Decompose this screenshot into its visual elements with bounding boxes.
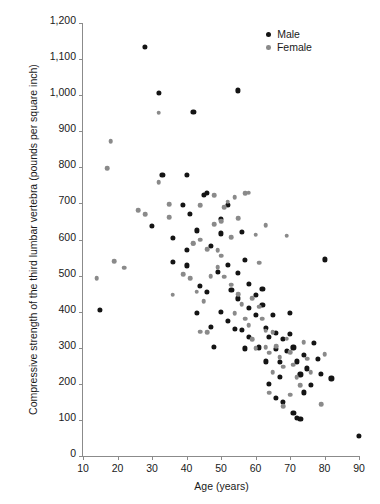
data-point-male: [201, 193, 206, 198]
data-point-female: [136, 208, 141, 213]
data-point-female: [167, 215, 172, 220]
y-tick-label: 400: [58, 304, 76, 315]
data-point-male: [277, 359, 282, 364]
legend-label-female: Female: [277, 41, 312, 54]
data-point-female: [198, 329, 203, 334]
data-point-female: [236, 216, 241, 221]
data-point-male: [322, 257, 327, 262]
data-point-male: [156, 90, 161, 95]
data-point-female: [284, 233, 289, 238]
data-point-female: [222, 274, 227, 279]
data-point-female: [253, 346, 258, 351]
x-tick-label: 60: [250, 463, 262, 474]
data-point-female: [170, 292, 175, 297]
data-point-male: [170, 235, 175, 240]
data-point-male: [184, 263, 189, 268]
data-point-male: [298, 417, 303, 422]
data-point-male: [187, 211, 192, 216]
legend-item-female: Female: [266, 41, 312, 54]
data-point-female: [281, 365, 286, 370]
data-point-female: [281, 404, 286, 409]
data-point-male: [236, 296, 241, 301]
data-point-female: [288, 350, 293, 355]
data-point-male: [225, 262, 230, 267]
data-point-female: [198, 203, 203, 208]
x-tick-mark: [325, 456, 326, 460]
x-tick-label: 40: [181, 463, 193, 474]
y-axis-title: Compressive strength of the third lumbar…: [22, 23, 44, 456]
data-point-female: [215, 248, 220, 253]
data-point-female: [305, 356, 310, 361]
data-point-female: [308, 370, 313, 375]
data-point-female: [243, 317, 248, 322]
data-point-female: [95, 276, 100, 281]
data-point-female: [233, 195, 238, 200]
data-point-male: [229, 287, 234, 292]
y-tick-label: 200: [58, 376, 76, 387]
data-point-female: [246, 323, 251, 328]
data-point-male: [236, 88, 241, 93]
data-point-male: [301, 390, 306, 395]
data-point-male: [260, 287, 265, 292]
data-point-female: [215, 265, 220, 270]
data-point-male: [191, 110, 196, 115]
y-tick-label: 100: [58, 412, 76, 423]
x-tick-label: 10: [77, 463, 89, 474]
data-point-female: [219, 219, 224, 224]
data-point-female: [233, 311, 238, 316]
data-point-male: [208, 325, 213, 330]
x-tick-label: 50: [215, 463, 227, 474]
data-point-male: [143, 45, 148, 50]
data-point-female: [198, 237, 203, 242]
data-point-female: [212, 193, 217, 198]
data-point-female: [105, 166, 110, 171]
data-point-male: [212, 344, 217, 349]
data-point-female: [122, 265, 127, 270]
data-point-female: [222, 205, 227, 210]
data-point-female: [229, 235, 234, 240]
data-point-female: [108, 139, 113, 144]
data-point-female: [264, 223, 269, 228]
data-point-female: [112, 259, 117, 264]
data-point-male: [246, 281, 251, 286]
x-axis-title: Age (years): [83, 481, 360, 492]
x-tick-mark: [152, 456, 153, 460]
data-point-male: [267, 334, 272, 339]
data-point-male: [184, 247, 189, 252]
y-tick-label: 800: [58, 159, 76, 170]
data-point-female: [143, 212, 148, 217]
data-point-female: [274, 344, 279, 349]
data-point-female: [205, 330, 210, 335]
data-point-female: [229, 282, 234, 287]
data-point-female: [250, 337, 255, 342]
y-tick-label: 900: [58, 123, 76, 134]
x-tick-mark: [187, 456, 188, 460]
x-tick-label: 70: [284, 463, 296, 474]
scatter-plot-figure: 01002003004005006007008009001,0001,1001,…: [0, 0, 380, 504]
data-point-female: [284, 336, 289, 341]
data-point-male: [236, 270, 241, 275]
data-point-female: [239, 302, 244, 307]
data-point-female: [219, 253, 224, 258]
data-point-female: [250, 296, 255, 301]
data-point-male: [315, 356, 320, 361]
data-point-female: [270, 330, 275, 335]
data-point-male: [184, 173, 189, 178]
y-tick-label: 0: [70, 448, 76, 459]
data-point-female: [246, 190, 251, 195]
data-point-female: [205, 247, 210, 252]
data-point-male: [218, 309, 223, 314]
x-tick-mark: [221, 456, 222, 460]
x-tick-mark: [290, 456, 291, 460]
data-point-female: [208, 274, 213, 279]
data-point-male: [205, 289, 210, 294]
data-point-male: [160, 173, 165, 178]
y-tick-label: 600: [58, 232, 76, 243]
data-point-female: [157, 111, 162, 116]
data-point-female: [264, 345, 269, 350]
data-point-male: [308, 382, 313, 387]
x-tick-label: 90: [353, 463, 365, 474]
legend-label-male: Male: [277, 28, 300, 41]
x-tick-label: 30: [146, 463, 158, 474]
data-point-male: [194, 228, 199, 233]
